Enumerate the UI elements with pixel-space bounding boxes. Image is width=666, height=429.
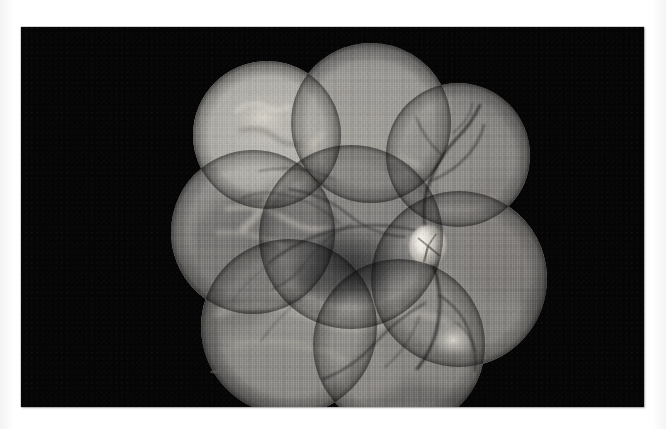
photograph-inner — [21, 27, 644, 407]
photo-caption — [0, 0, 1, 1]
fundus-montage-svg — [21, 27, 644, 407]
field-edge-vignettes — [171, 43, 547, 407]
page-root — [0, 0, 666, 429]
fundus-montage — [21, 27, 644, 407]
dust-speck — [210, 371, 218, 374]
fundus-photograph-print — [21, 27, 644, 407]
